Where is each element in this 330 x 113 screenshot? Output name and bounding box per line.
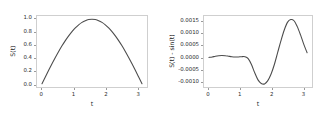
y-tick-label: 0.0015 bbox=[169, 18, 199, 23]
y-tick-label: 0.6 bbox=[18, 42, 32, 47]
y-tick-label: -0.0010 bbox=[169, 79, 199, 84]
chart-panel-right: -0.0010-0.00050.00000.00050.00100.001501… bbox=[165, 0, 330, 113]
curve-svg-left bbox=[37, 16, 147, 87]
y-tick-mark bbox=[34, 58, 36, 59]
y-tick-label: 1.0 bbox=[18, 16, 32, 21]
x-tick-label: 0 bbox=[39, 92, 42, 97]
y-tick-label: 0.8 bbox=[18, 29, 32, 34]
x-tick-label: 2 bbox=[104, 92, 107, 97]
x-tick-mark bbox=[106, 88, 107, 90]
y-axis-label-left: S(t) bbox=[10, 36, 16, 66]
x-tick-mark bbox=[138, 88, 139, 90]
y-tick-mark bbox=[201, 58, 203, 59]
plot-area-right bbox=[203, 15, 313, 88]
y-tick-mark bbox=[34, 85, 36, 86]
x-tick-mark bbox=[272, 88, 273, 90]
chart-panel-left: 0.00.20.40.60.81.00123 t S(t) bbox=[0, 0, 165, 113]
y-tick-mark bbox=[34, 18, 36, 19]
y-tick-mark bbox=[201, 45, 203, 46]
x-tick-mark bbox=[41, 88, 42, 90]
y-tick-mark bbox=[201, 33, 203, 34]
matplotlib-figure: 0.00.20.40.60.81.00123 t S(t) -0.0010-0.… bbox=[0, 0, 330, 113]
x-tick-label: 1 bbox=[238, 92, 241, 97]
y-axis-label-right: S(t) - sin(t) bbox=[169, 28, 175, 74]
y-tick-mark bbox=[201, 70, 203, 71]
y-tick-mark bbox=[34, 71, 36, 72]
y-tick-mark bbox=[34, 32, 36, 33]
x-axis-label-right: t bbox=[257, 101, 259, 107]
y-tick-mark bbox=[201, 82, 203, 83]
x-tick-mark bbox=[304, 88, 305, 90]
y-tick-label: 0.4 bbox=[18, 55, 32, 60]
x-tick-label: 3 bbox=[302, 92, 305, 97]
x-tick-label: 2 bbox=[270, 92, 273, 97]
x-tick-label: 0 bbox=[206, 92, 209, 97]
x-tick-label: 3 bbox=[137, 92, 140, 97]
y-tick-label: 0.2 bbox=[18, 69, 32, 74]
x-tick-mark bbox=[74, 88, 75, 90]
x-axis-label-left: t bbox=[91, 101, 93, 107]
data-curve-error bbox=[209, 19, 307, 84]
y-tick-mark bbox=[34, 45, 36, 46]
x-tick-mark bbox=[208, 88, 209, 90]
y-tick-mark bbox=[201, 21, 203, 22]
plot-area-left bbox=[36, 15, 148, 88]
x-tick-mark bbox=[240, 88, 241, 90]
curve-svg-right bbox=[204, 16, 312, 87]
data-curve-st bbox=[42, 19, 142, 84]
x-tick-label: 1 bbox=[72, 92, 75, 97]
y-tick-label: 0.0 bbox=[18, 82, 32, 87]
